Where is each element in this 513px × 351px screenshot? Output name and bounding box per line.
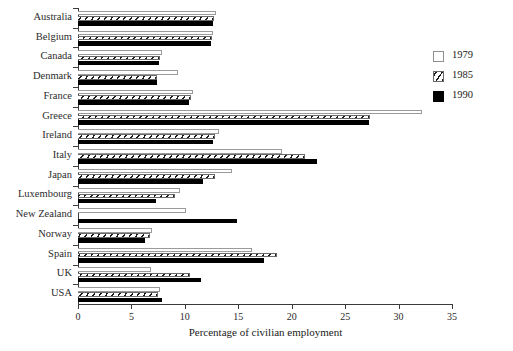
y-tick-spain	[73, 245, 78, 246]
bar-norway-1979	[78, 228, 152, 233]
category-label-spain: Spain	[48, 248, 72, 259]
category-label-italy: Italy	[53, 149, 72, 160]
bar-spain-1985	[78, 253, 277, 258]
x-tick-label-35: 35	[447, 311, 457, 322]
bar-australia-1990	[78, 21, 213, 26]
x-tick-10	[185, 304, 186, 309]
x-tick-label-5: 5	[129, 311, 134, 322]
bar-chart: 05101520253035 AustraliaBelgiumCanadaDen…	[0, 0, 513, 351]
x-tick-label-0: 0	[76, 311, 81, 322]
bar-spain-1979	[78, 248, 252, 253]
x-tick-15	[238, 304, 239, 309]
bar-japan-1985	[78, 174, 215, 179]
bar-france-1990	[78, 100, 189, 105]
y-tick-australia	[73, 8, 78, 9]
category-label-new-zealand: New Zealand	[16, 208, 72, 219]
bar-denmark-1990	[78, 80, 157, 85]
bar-italy-1979	[78, 149, 282, 154]
x-tick-label-20: 20	[287, 311, 297, 322]
y-tick-italy	[73, 146, 78, 147]
x-tick-label-30: 30	[394, 311, 404, 322]
legend-label-1990: 1990	[452, 89, 473, 100]
bar-france-1979	[78, 90, 193, 95]
bar-usa-1990	[78, 298, 162, 303]
x-tick-5	[131, 304, 132, 309]
bar-italy-1985	[78, 154, 305, 159]
bar-norway-1990	[78, 238, 145, 243]
x-tick-30	[399, 304, 400, 309]
bar-belgium-1979	[78, 31, 213, 36]
y-tick-ireland	[73, 126, 78, 127]
x-tick-label-25: 25	[340, 311, 350, 322]
category-label-japan: Japan	[48, 169, 72, 180]
category-label-luxembourg: Luxembourg	[18, 188, 72, 199]
bar-canada-1979	[78, 50, 162, 55]
bar-ireland-1985	[78, 134, 215, 139]
bar-japan-1990	[78, 179, 203, 184]
bar-australia-1979	[78, 11, 216, 16]
category-label-canada: Canada	[41, 50, 73, 61]
bar-luxembourg-1985	[78, 194, 175, 199]
bar-usa-1979	[78, 287, 160, 292]
y-tick-luxembourg	[73, 186, 78, 187]
bar-greece-1979	[78, 110, 422, 115]
category-label-belgium: Belgium	[36, 31, 72, 42]
bar-canada-1990	[78, 61, 159, 66]
x-tick-0	[78, 304, 79, 309]
bar-canada-1985	[78, 56, 160, 61]
category-label-france: France	[43, 90, 72, 101]
y-tick-uk	[73, 265, 78, 266]
legend-swatch-1990-icon	[433, 91, 444, 102]
y-tick-new-zealand	[73, 205, 78, 206]
bar-ireland-1990	[78, 140, 213, 145]
y-tick-canada	[73, 47, 78, 48]
bar-belgium-1985	[78, 36, 212, 41]
x-axis-title: Percentage of civilian employment	[78, 326, 453, 338]
bar-france-1985	[78, 95, 191, 100]
y-tick-japan	[73, 166, 78, 167]
bar-greece-1985	[78, 115, 370, 120]
x-tick-35	[452, 304, 453, 309]
category-label-denmark: Denmark	[33, 70, 72, 81]
y-tick-denmark	[73, 67, 78, 68]
category-label-australia: Australia	[34, 11, 73, 22]
bar-new-zealand-1990	[78, 219, 237, 224]
y-tick-usa	[73, 284, 78, 285]
bar-uk-1990	[78, 278, 201, 283]
bar-luxembourg-1979	[78, 188, 180, 193]
x-tick-20	[292, 304, 293, 309]
category-label-norway: Norway	[38, 228, 72, 239]
bar-ireland-1979	[78, 129, 219, 134]
bar-australia-1985	[78, 16, 214, 21]
legend-label-1985: 1985	[452, 69, 473, 80]
bar-uk-1985	[78, 273, 190, 278]
bar-spain-1990	[78, 258, 264, 263]
bar-new-zealand-1979	[78, 208, 186, 213]
bar-japan-1979	[78, 169, 232, 174]
legend-label-1979: 1979	[452, 49, 473, 60]
category-label-greece: Greece	[42, 110, 72, 121]
bar-luxembourg-1990	[78, 199, 156, 204]
x-tick-label-10: 10	[180, 311, 190, 322]
bar-denmark-1979	[78, 70, 178, 75]
x-tick-label-15: 15	[233, 311, 243, 322]
bar-norway-1985	[78, 233, 150, 238]
y-tick-norway	[73, 225, 78, 226]
bar-greece-1990	[78, 120, 369, 125]
y-tick-greece	[73, 107, 78, 108]
x-axis-line	[78, 304, 453, 305]
bar-italy-1990	[78, 159, 317, 164]
legend-swatch-1985-icon	[433, 71, 444, 82]
y-tick-france	[73, 87, 78, 88]
bar-usa-1985	[78, 292, 158, 297]
bar-belgium-1990	[78, 41, 211, 46]
bar-denmark-1985	[78, 75, 157, 80]
x-tick-25	[345, 304, 346, 309]
bar-uk-1979	[78, 267, 151, 272]
category-label-ireland: Ireland	[42, 129, 72, 140]
category-label-uk: UK	[57, 267, 72, 278]
category-label-usa: USA	[51, 287, 72, 298]
legend-swatch-1979-icon	[433, 51, 444, 62]
y-tick-belgium	[73, 28, 78, 29]
